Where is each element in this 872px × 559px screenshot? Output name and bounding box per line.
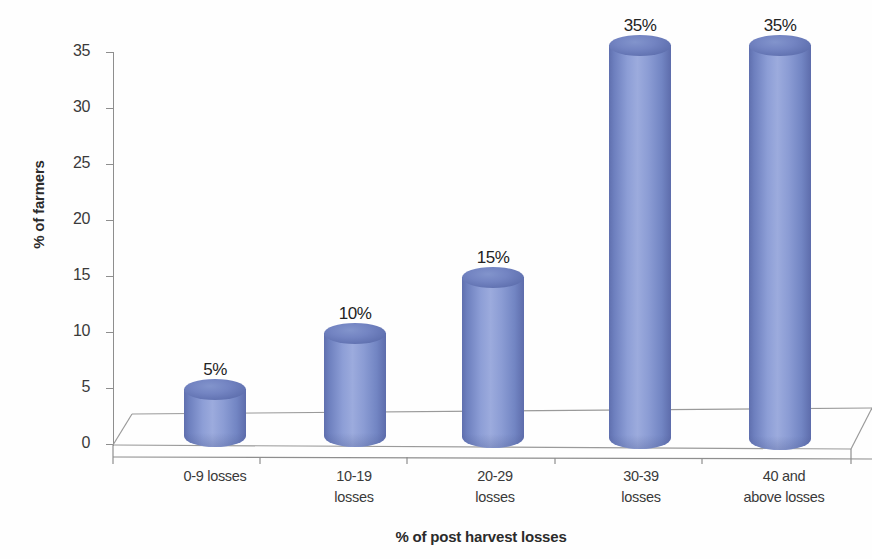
y-tick-label-20: 20 bbox=[44, 210, 90, 228]
y-axis-line bbox=[113, 52, 114, 446]
x-tick-label-40-and-above: 40 and above losses bbox=[706, 466, 862, 508]
x-tick-label-10-19-losses: 10-19 losses bbox=[283, 466, 425, 508]
bar-value-label: 10% bbox=[339, 304, 372, 324]
bar-30-39-losses: 35% bbox=[609, 45, 671, 449]
y-tick-label-35: 35 bbox=[44, 42, 90, 60]
y-tick-label-0: 0 bbox=[44, 434, 90, 452]
y-tick-label-25: 25 bbox=[44, 154, 90, 172]
bar-40-and-above-losses: 35% bbox=[749, 45, 811, 450]
y-tick-mark-20 bbox=[106, 220, 114, 221]
y-tick-mark-15 bbox=[106, 276, 114, 277]
bar-top-cap bbox=[462, 267, 524, 288]
bar-value-label: 15% bbox=[477, 248, 510, 268]
bar-top-cap bbox=[749, 35, 811, 56]
bar-top-cap bbox=[324, 323, 386, 344]
bar-bottom-shade bbox=[184, 433, 246, 447]
bar-10-19-losses: 10% bbox=[324, 333, 386, 447]
x-tick-label-20-29-losses: 20-29 losses bbox=[424, 466, 566, 508]
x-axis-title: % of post harvest losses bbox=[0, 528, 872, 545]
y-tick-mark-30 bbox=[106, 108, 114, 109]
bar-bottom-shade bbox=[749, 436, 811, 450]
bar-bottom-shade bbox=[324, 433, 386, 447]
bar-0-9-losses: 5% bbox=[184, 389, 246, 447]
x-tick-label-30-39-losses: 30-39 losses bbox=[570, 466, 712, 508]
x-tick-label-0-9-losses: 0-9 losses bbox=[130, 466, 300, 487]
bar-value-label: 35% bbox=[764, 16, 797, 36]
y-tick-label-30: 30 bbox=[44, 98, 90, 116]
chart-figure: % of farmers 35 30 25 20 15 10 5 0 bbox=[0, 0, 872, 559]
bar-bottom-shade bbox=[609, 435, 671, 449]
bar-value-label: 5% bbox=[203, 360, 227, 380]
y-tick-label-10: 10 bbox=[44, 322, 90, 340]
bar-20-29-losses: 15% bbox=[462, 277, 524, 448]
y-tick-mark-5 bbox=[106, 388, 114, 389]
bar-top-cap bbox=[609, 35, 671, 56]
bar-bottom-shade bbox=[462, 434, 524, 448]
y-tick-label-5: 5 bbox=[44, 378, 90, 396]
y-tick-mark-35 bbox=[106, 52, 114, 53]
bar-top-cap bbox=[184, 379, 246, 400]
y-tick-mark-0 bbox=[106, 444, 114, 445]
y-tick-mark-25 bbox=[106, 164, 114, 165]
y-tick-label-15: 15 bbox=[44, 266, 90, 284]
y-tick-mark-10 bbox=[106, 332, 114, 333]
bar-value-label: 35% bbox=[624, 16, 657, 36]
